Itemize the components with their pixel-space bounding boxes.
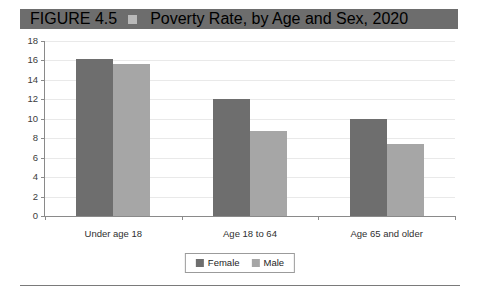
y-axis-tick-label-text: 4 bbox=[10, 172, 38, 182]
legend-item-female[interactable]: Female bbox=[196, 257, 240, 268]
y-axis-tick-label-text: 16 bbox=[10, 55, 38, 65]
legend-swatch-male-icon bbox=[252, 259, 260, 267]
bar-group bbox=[213, 41, 287, 216]
chart-plot-wrapper bbox=[0, 34, 480, 226]
y-axis-tick-label-text: 6 bbox=[10, 153, 38, 163]
chart-legend: Female Male bbox=[185, 253, 295, 273]
bar-group bbox=[350, 41, 424, 216]
figure-container: FIGURE 4.5 Poverty Rate, by Age and Sex,… bbox=[0, 0, 480, 294]
y-axis-tick-label-text: 8 bbox=[10, 133, 38, 143]
bar-male-1[interactable] bbox=[250, 131, 287, 216]
y-axis-tick-label: 8 bbox=[0, 133, 38, 143]
y-axis-tick-mark bbox=[41, 119, 45, 120]
legend-label-female: Female bbox=[208, 257, 240, 268]
y-axis-tick-mark bbox=[41, 80, 45, 81]
x-axis-category-label: Under age 18 bbox=[45, 228, 182, 239]
y-axis-tick-label: 18 bbox=[0, 36, 38, 46]
y-axis-tick-label: 0 bbox=[0, 211, 38, 221]
legend-item-male[interactable]: Male bbox=[252, 257, 285, 268]
y-axis-tick-mark bbox=[41, 99, 45, 100]
y-axis-tick-label-text: 0 bbox=[10, 211, 38, 221]
bar-male-0[interactable] bbox=[113, 64, 150, 216]
figure-title: Poverty Rate, by Age and Sex, 2020 bbox=[150, 10, 408, 28]
bottom-divider bbox=[20, 285, 460, 286]
figure-number: FIGURE 4.5 bbox=[30, 10, 117, 28]
bar-female-1[interactable] bbox=[213, 99, 250, 216]
y-axis-tick-mark bbox=[41, 197, 45, 198]
legend-swatch-female-icon bbox=[196, 259, 204, 267]
y-axis-tick-mark bbox=[41, 177, 45, 178]
y-axis-tick-label: 12 bbox=[0, 94, 38, 104]
y-axis-tick-label: 4 bbox=[0, 172, 38, 182]
y-axis-tick-mark bbox=[41, 41, 45, 42]
y-axis-line bbox=[44, 41, 45, 217]
x-axis-category-label: Age 65 and older bbox=[318, 228, 455, 239]
x-axis-tick-mark bbox=[45, 216, 46, 220]
figure-title-bar: FIGURE 4.5 Poverty Rate, by Age and Sex,… bbox=[20, 9, 458, 29]
square-marker-icon bbox=[128, 15, 137, 24]
y-axis-tick-label-text: 2 bbox=[10, 192, 38, 202]
bar-group bbox=[76, 41, 150, 216]
y-axis-tick-label-text: 18 bbox=[10, 36, 38, 46]
y-axis-tick-label: 16 bbox=[0, 55, 38, 65]
x-axis-tick-mark bbox=[455, 216, 456, 220]
y-axis-tick-mark bbox=[41, 60, 45, 61]
y-axis-tick-mark bbox=[41, 138, 45, 139]
y-axis-tick-label-text: 14 bbox=[10, 75, 38, 85]
y-axis-tick-mark bbox=[41, 158, 45, 159]
y-axis-tick-label: 2 bbox=[0, 192, 38, 202]
bar-female-2[interactable] bbox=[350, 119, 387, 216]
chart-plot-area bbox=[45, 41, 455, 216]
bar-male-2[interactable] bbox=[387, 144, 424, 216]
y-axis-tick-label: 10 bbox=[0, 114, 38, 124]
x-axis-category-label: Age 18 to 64 bbox=[182, 228, 319, 239]
x-axis-tick-mark bbox=[318, 216, 319, 220]
legend-label-male: Male bbox=[264, 257, 285, 268]
x-axis-tick-mark bbox=[182, 216, 183, 220]
y-axis-tick-label-text: 12 bbox=[10, 94, 38, 104]
y-axis-tick-label-text: 10 bbox=[10, 114, 38, 124]
y-axis-tick-label: 14 bbox=[0, 75, 38, 85]
x-axis-line bbox=[44, 216, 456, 217]
bar-female-0[interactable] bbox=[76, 59, 113, 217]
y-axis-tick-label: 6 bbox=[0, 153, 38, 163]
